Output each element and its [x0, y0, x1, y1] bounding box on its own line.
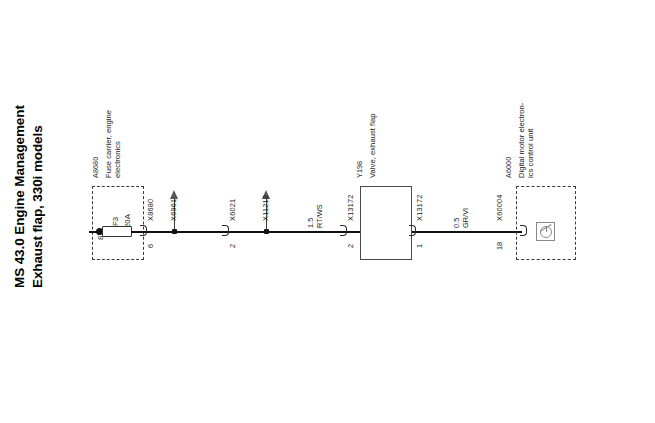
diagram-title: MS 43.0 Engine Management Exhaust flap, …: [10, 98, 56, 308]
wiring-diagram-page: MS 43.0 Engine Management Exhaust flap, …: [0, 0, 655, 423]
connector-x60004-label: X60004: [495, 194, 504, 221]
connector-x6961-label: X6961: [169, 199, 178, 221]
connector-x6021-label: X6021: [228, 199, 237, 221]
ecu-module-icon-tick: [546, 226, 547, 232]
connector-x13172-in-label: X13172: [346, 194, 355, 221]
connector-x13172-out: [409, 225, 416, 236]
wire-spec-rt-ws: 1.5 RT/WS: [306, 204, 324, 228]
connector-x13172-out-pin: 1: [415, 244, 424, 248]
wire-segment-valve-to-ecu: [412, 231, 522, 233]
fuse-icon: [102, 226, 132, 237]
connector-x8680: [140, 225, 147, 236]
wire-spec-gr-vi-size: 0.5: [452, 218, 461, 228]
connector-x13172-in: [340, 225, 347, 236]
fuse-carrier-ref: A8680: [91, 157, 100, 178]
wire-spec-rt-ws-colour: RT/WS: [315, 204, 324, 228]
connector-x13172-in-pin: 2: [346, 244, 355, 248]
fuse-designation-label: F3: [111, 217, 120, 226]
wire-spec-gr-vi: 0.5 GR/VI: [452, 208, 470, 228]
connector-x13172-out-label: X13172: [415, 194, 424, 221]
title-line-2: Exhaust flap, 330i models: [30, 125, 45, 288]
connector-x8680-pin: 6: [146, 244, 155, 248]
connector-x60004-pin: 18: [495, 242, 504, 250]
connector-x6021: [222, 225, 229, 236]
valve-description: Valve, exhaust flap: [368, 113, 377, 178]
valve-box: [360, 186, 412, 260]
valve-ref: Y198: [355, 161, 364, 178]
connector-x6021-pin: 2: [228, 244, 237, 248]
wire-segment-valve-input: [312, 231, 360, 233]
control-unit-description: Digital motor electron- ics control unit: [517, 103, 536, 178]
fuse-carrier-description: Fuse carrier, engine electronics: [104, 110, 123, 178]
wire-spec-gr-vi-colour: GR/VI: [461, 208, 470, 228]
control-unit-ref: A6000: [504, 157, 513, 178]
connector-x11212-label: X11212: [261, 195, 270, 221]
ecu-module-icon: [536, 222, 555, 241]
title-line-1: MS 43.0 Engine Management: [12, 105, 27, 288]
connector-x8680-label: X8680: [146, 199, 155, 221]
wire-spec-rt-ws-size: 1.5: [306, 218, 315, 228]
